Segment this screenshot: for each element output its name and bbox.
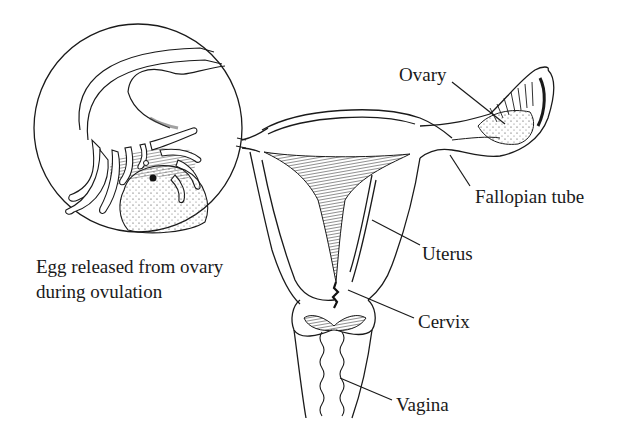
label-uterus: Uterus [422, 243, 473, 265]
inset-caption-line1: Egg released from ovary [36, 254, 223, 279]
label-fallopian-tube: Fallopian tube [475, 186, 584, 208]
label-ovary: Ovary [399, 64, 446, 86]
vagina-leader-line [340, 378, 392, 400]
uterus-leader-line [372, 220, 420, 245]
cervical-canal [333, 282, 338, 308]
inset-magnified-ovary [34, 24, 246, 233]
vaginal-canal-right [340, 332, 344, 416]
uterine-cavity [264, 152, 410, 282]
label-vagina: Vagina [396, 394, 449, 416]
label-cervix: Cervix [418, 311, 470, 333]
cervix-leader-line [348, 290, 414, 318]
anatomy-drawing [0, 0, 626, 440]
diagram-canvas: Ovary Fallopian tube Uterus Cervix Vagin… [0, 0, 626, 440]
vaginal-canal-left [320, 332, 324, 416]
inset-caption: Egg released from ovary during ovulation [36, 254, 223, 304]
cervix-shading [304, 316, 366, 331]
inset-caption-line2: during ovulation [36, 279, 223, 304]
fallopian-tube-leader-line [450, 155, 470, 186]
